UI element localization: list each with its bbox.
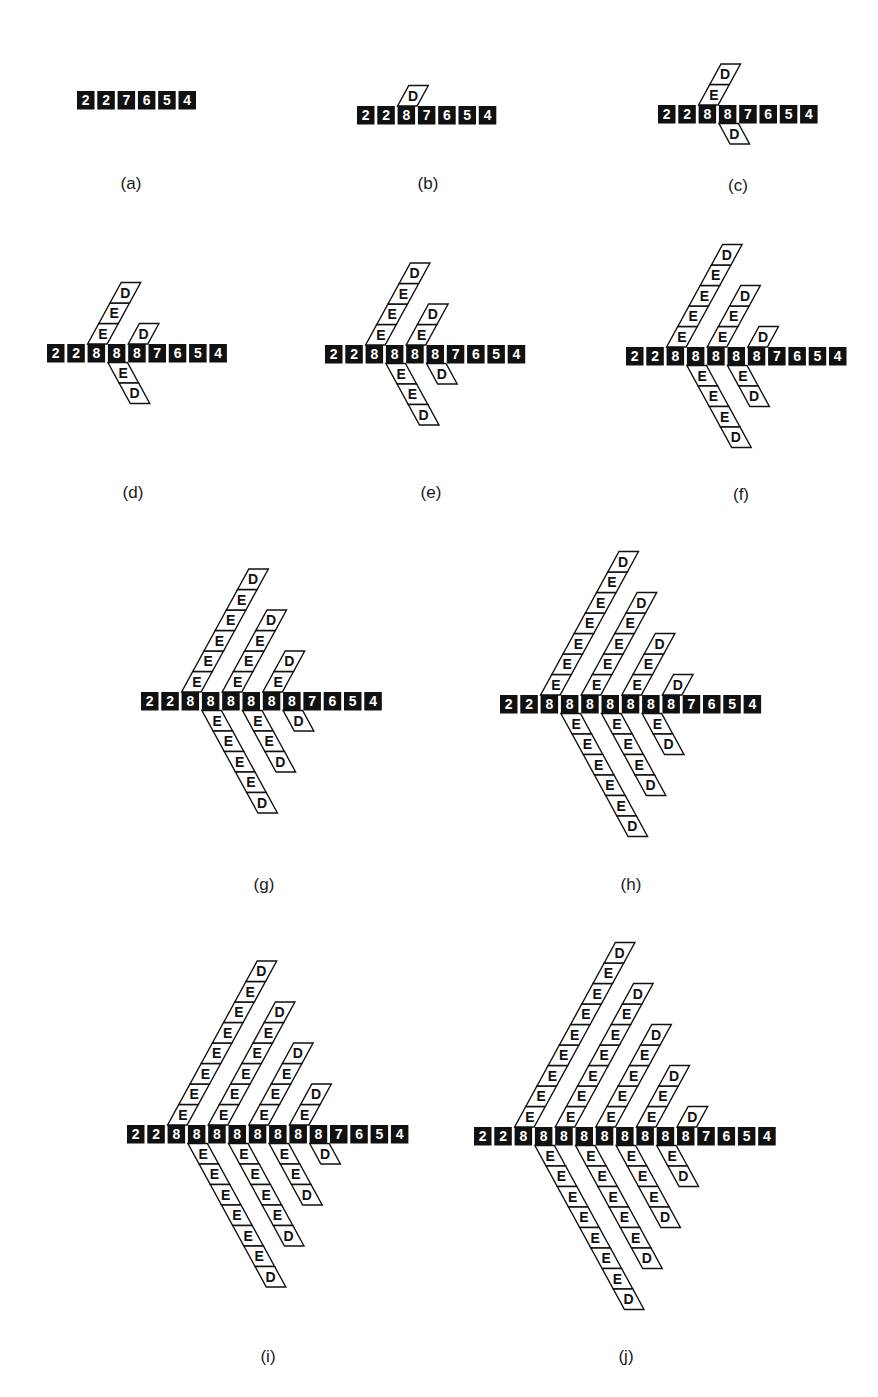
digit-text: 8 [606, 696, 614, 712]
digit-text: 8 [213, 1126, 221, 1142]
branch-down: D [310, 1144, 341, 1165]
branch-letter: E [572, 716, 581, 732]
branch-letter: E [592, 677, 601, 693]
branch-letter: D [302, 1187, 312, 1203]
digit-row: 227654 [77, 91, 196, 110]
digit-text: 6 [472, 346, 480, 362]
branch-letter: D [419, 407, 429, 423]
branch-letter: E [638, 1168, 647, 1184]
digit-text: 8 [641, 1128, 649, 1144]
branch-letter: E [562, 656, 571, 672]
branch-letter: D [408, 88, 418, 104]
branch-letter: E [574, 636, 583, 652]
digit-text: 6 [443, 107, 451, 123]
branch-letter: E [255, 1248, 264, 1264]
digit-text: 2 [350, 346, 358, 362]
branch-letter: E [597, 1168, 606, 1184]
digit-text: 8 [274, 1126, 282, 1142]
digit-text: 5 [349, 693, 357, 709]
branch-letter: E [557, 1168, 566, 1184]
branch-letter: E [280, 1146, 289, 1162]
figure-canvas: 227654D2287654EDD22887654EEDDED228887654… [0, 0, 878, 1397]
branch-letter: E [596, 595, 605, 611]
digit-text: 6 [329, 693, 337, 709]
branch-letter: D [120, 285, 130, 301]
digit-text: 2 [683, 106, 691, 122]
branch-up: ED [699, 64, 741, 105]
branch-letter: E [583, 736, 592, 752]
branch-letter: E [718, 329, 727, 345]
digit-text: 2 [382, 107, 390, 123]
branch-letter: E [243, 1228, 252, 1244]
branch-letter: E [241, 1066, 250, 1082]
digit-text: 2 [505, 696, 513, 712]
branch-letter: E [640, 1047, 649, 1063]
branch-letter: E [658, 1088, 667, 1104]
branch-letter: E [623, 736, 632, 752]
branch-letter: D [633, 986, 643, 1002]
branch-letter: D [731, 429, 741, 445]
digit-text: 8 [411, 346, 419, 362]
branch-letter: E [632, 677, 641, 693]
digit-text: 8 [724, 106, 732, 122]
branch-letter: D [687, 1109, 697, 1125]
branch-letter: D [266, 612, 276, 628]
branch-letter: E [271, 1086, 280, 1102]
branch-down: ED [728, 366, 770, 407]
branch-letter: E [720, 409, 729, 425]
digit-text: 6 [708, 696, 716, 712]
branch-letter: E [264, 733, 273, 749]
branch-letter: E [273, 1207, 282, 1223]
digit-text: 5 [163, 92, 171, 108]
digit-text: 7 [122, 92, 130, 108]
digit-text: 4 [763, 1128, 771, 1144]
branch-letter: D [729, 126, 739, 142]
branch-letter: D [129, 385, 139, 401]
panel-d: EEDDED228887654 [47, 283, 227, 404]
branch-letter: E [235, 754, 244, 770]
digit-text: 8 [294, 1126, 302, 1142]
branch-letter: E [579, 1209, 588, 1225]
digit-text: 8 [133, 345, 141, 361]
digit-text: 4 [214, 345, 222, 361]
branch-letter: E [234, 1004, 243, 1020]
branch-letter: E [570, 1027, 579, 1043]
digit-text: 6 [143, 92, 151, 108]
digit-text: 8 [682, 1128, 690, 1144]
branch-letter: D [624, 1291, 634, 1307]
branch-letter: E [606, 1109, 615, 1125]
digit-text: 8 [732, 348, 740, 364]
branch-letter: E [698, 368, 707, 384]
branch-letter: E [417, 327, 426, 343]
digit-text: 7 [744, 106, 752, 122]
branch-up: D [398, 86, 429, 107]
digit-row: 22887654 [658, 105, 818, 124]
branch-letter: E [613, 1271, 622, 1287]
digit-text: 2 [72, 345, 80, 361]
branch-letter: E [738, 368, 747, 384]
branch-letter: E [629, 1068, 638, 1084]
branch-letter: E [212, 1045, 221, 1061]
branch-letter: E [221, 1187, 230, 1203]
branch-letter: E [239, 1146, 248, 1162]
branch-letter: E [259, 1107, 268, 1123]
branch-letter: E [729, 308, 738, 324]
digit-text: 2 [146, 693, 154, 709]
branch-letter: E [223, 1025, 232, 1041]
branch-letter: D [256, 963, 266, 979]
branch-letter: E [226, 612, 235, 628]
branch-up: ED [263, 651, 305, 692]
branch-letter: D [720, 66, 730, 82]
branch-letter: E [605, 777, 614, 793]
digit-text: 8 [315, 1126, 323, 1142]
digit-text: 6 [793, 348, 801, 364]
branch-letter: E [273, 674, 282, 690]
branch-letter: D [248, 571, 258, 587]
branch-letter: E [577, 1088, 586, 1104]
panel-c: EDD22887654 [658, 64, 818, 144]
branch-letter: E [250, 1166, 259, 1182]
branch-down: ED [657, 1146, 699, 1187]
branch-letter: D [669, 1068, 679, 1084]
branch-letter: E [622, 1006, 631, 1022]
branch-letter: D [284, 653, 294, 669]
